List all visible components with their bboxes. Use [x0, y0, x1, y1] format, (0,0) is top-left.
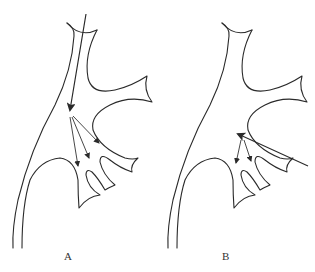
diagram-canvas [0, 0, 315, 272]
panel-a-label: A [64, 250, 72, 262]
panel-b-arrow-1 [236, 140, 241, 163]
panel-a [13, 14, 152, 248]
panel-b-outer-wall [168, 23, 229, 248]
panel-b [168, 23, 308, 248]
panel-a-outer-wall [13, 23, 74, 248]
panel-b-arrow-2 [244, 140, 251, 161]
panel-b-label: B [222, 250, 229, 262]
panel-a-arrow-1 [70, 117, 78, 166]
panel-b-top-rim [222, 23, 252, 33]
panel-a-upper-calyx [22, 30, 152, 248]
panel-b-main-arrow [238, 134, 308, 166]
panel-a-top-rim [67, 23, 97, 33]
panel-b-upper-calyx [177, 30, 307, 248]
